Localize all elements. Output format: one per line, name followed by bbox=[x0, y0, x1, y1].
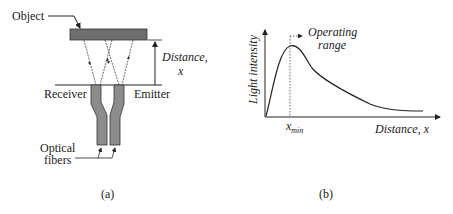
distance-variable: x bbox=[177, 64, 184, 78]
panel-b: Light intensity Distance, x Operating ra… bbox=[246, 25, 440, 201]
caption-b: (b) bbox=[319, 187, 333, 201]
emitter-fiber bbox=[110, 85, 124, 145]
fiber-pointer-arrow bbox=[75, 148, 101, 158]
ray-2 bbox=[105, 40, 119, 85]
distance-label: Distance, bbox=[161, 50, 208, 64]
y-axis-label: Light intensity bbox=[246, 34, 260, 105]
object-bar bbox=[70, 29, 147, 40]
emitter-label: Emitter bbox=[134, 87, 170, 101]
caption-a: (a) bbox=[101, 187, 114, 201]
receiver-label: Receiver bbox=[44, 87, 87, 101]
operating-range-label-line1: Operating bbox=[308, 25, 357, 39]
x-axis-label: Distance, x bbox=[374, 122, 430, 136]
optical-fibers-label-line2: fibers bbox=[44, 153, 72, 167]
ray-arrow-icon bbox=[106, 58, 109, 61]
intensity-curve bbox=[266, 46, 423, 116]
panel-a: Object Distance, x Receiver Emitter Opti… bbox=[12, 9, 208, 201]
ray-arrow-icon bbox=[107, 61, 110, 64]
receiver-fiber bbox=[91, 85, 107, 145]
figure: Object Distance, x Receiver Emitter Opti… bbox=[0, 0, 453, 214]
ray-4 bbox=[122, 40, 133, 85]
operating-range-label-line2: range bbox=[318, 38, 347, 52]
ray-arrow-icon bbox=[127, 56, 130, 59]
object-pointer-arrow bbox=[48, 16, 80, 28]
ray-3 bbox=[100, 40, 112, 85]
object-label: Object bbox=[12, 9, 45, 23]
x-min-label: xmin bbox=[285, 119, 303, 135]
